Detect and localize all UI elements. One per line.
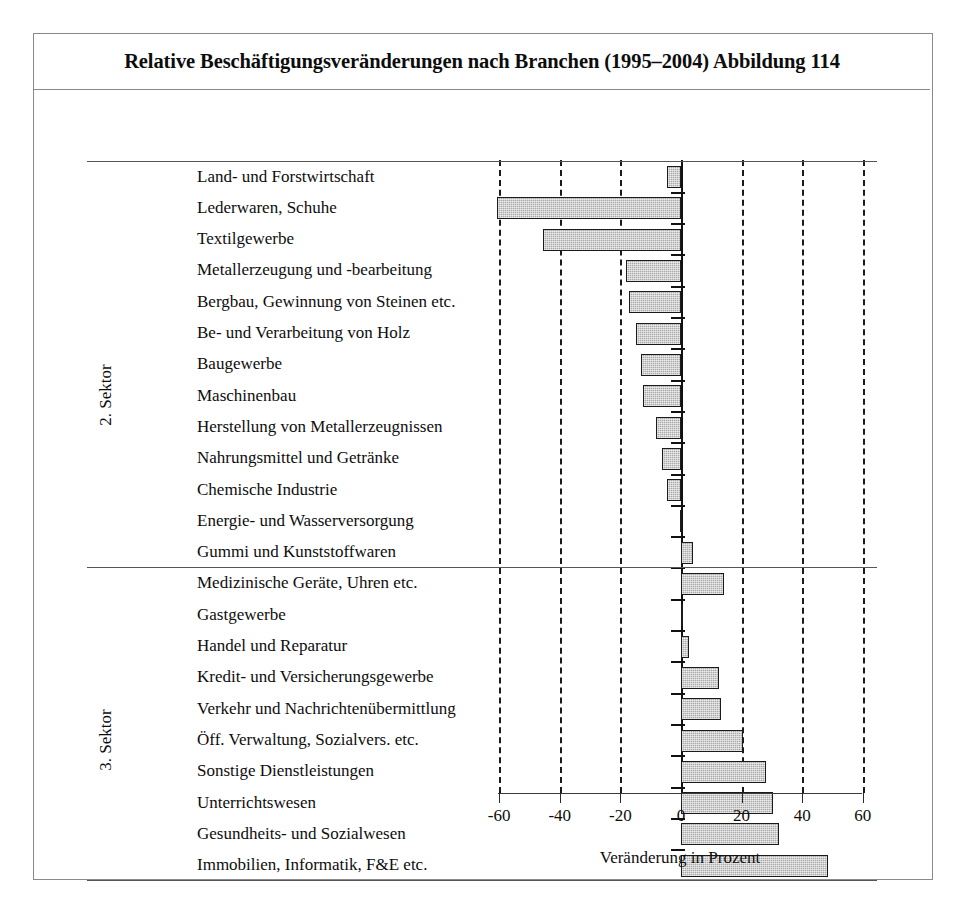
- chart-row: Öff. Verwaltung, Sozialvers. etc.: [0, 724, 966, 755]
- x-axis-tick: [742, 793, 743, 803]
- x-axis-tick-label: -20: [590, 806, 650, 826]
- bar: [667, 479, 681, 501]
- x-axis-tick: [620, 793, 621, 803]
- y-axis-tick: [671, 223, 685, 225]
- sector-separator: [87, 880, 877, 881]
- category-label: Chemische Industrie: [197, 474, 337, 505]
- y-axis-tick: [671, 442, 685, 444]
- chart-row: Land- und Forstwirtschaft: [0, 161, 966, 192]
- category-label: Gesundheits- und Sozialwesen: [197, 818, 406, 849]
- chart-row: Medizinische Geräte, Uhren etc.: [0, 567, 966, 598]
- bar: [681, 636, 689, 658]
- bar: [681, 573, 724, 595]
- bar: [656, 417, 681, 439]
- category-label: Lederwaren, Schuhe: [197, 192, 337, 223]
- chart-row: Chemische Industrie: [0, 474, 966, 505]
- bar: [681, 604, 683, 626]
- y-axis-tick: [671, 411, 685, 413]
- category-label: Sonstige Dienstleistungen: [197, 755, 374, 786]
- chart-row: Baugewerbe: [0, 348, 966, 379]
- y-axis-tick: [671, 630, 685, 632]
- chart-row: Textilgewerbe: [0, 223, 966, 254]
- bar: [543, 229, 681, 251]
- y-axis-tick: [671, 599, 685, 601]
- y-axis-tick: [671, 505, 685, 507]
- x-axis-tick-label: -60: [469, 806, 529, 826]
- x-axis-line: [498, 793, 862, 794]
- bar: [681, 761, 766, 783]
- chart-row: Energie- und Wasserversorgung: [0, 505, 966, 536]
- y-axis-tick: [671, 661, 685, 663]
- y-axis-tick: [671, 192, 685, 194]
- y-axis-tick: [671, 787, 685, 789]
- bar: [681, 667, 719, 689]
- chart-row: Verkehr und Nachrichtenübermittlung: [0, 693, 966, 724]
- category-label: Öff. Verwaltung, Sozialvers. etc.: [197, 724, 419, 755]
- category-label: Nahrungsmittel und Getränke: [197, 442, 399, 473]
- x-axis-tick-label: 60: [833, 806, 893, 826]
- chart-row: Gastgewerbe: [0, 599, 966, 630]
- category-label: Land- und Forstwirtschaft: [197, 161, 375, 192]
- x-axis-tick: [863, 793, 864, 803]
- category-label: Herstellung von Metallerzeugnissen: [197, 411, 443, 442]
- category-label: Medizinische Geräte, Uhren etc.: [197, 567, 417, 598]
- y-axis-tick: [671, 724, 685, 726]
- category-label: Bergbau, Gewinnung von Steinen etc.: [197, 286, 455, 317]
- chart-row: Gummi und Kunststoffwaren: [0, 536, 966, 567]
- bar: [681, 542, 693, 564]
- bar: [681, 730, 743, 752]
- x-axis-title: Veränderung in Prozent: [498, 848, 862, 868]
- sector-label: 3. Sektor: [96, 680, 116, 800]
- bar: [662, 448, 681, 470]
- category-label: Verkehr und Nachrichtenübermittlung: [197, 693, 456, 724]
- x-axis-tick: [499, 793, 500, 803]
- x-axis-tick: [681, 793, 682, 803]
- chart-row: Be- und Verarbeitung von Holz: [0, 317, 966, 348]
- category-label: Baugewerbe: [197, 348, 282, 379]
- category-label: Unterrichtswesen: [197, 787, 316, 818]
- y-axis-tick: [671, 474, 685, 476]
- x-axis-tick: [560, 793, 561, 803]
- category-label: Metallerzeugung und -bearbeitung: [197, 254, 432, 285]
- bar: [636, 323, 681, 345]
- category-label: Gastgewerbe: [197, 599, 286, 630]
- chart-row: Nahrungsmittel und Getränke: [0, 442, 966, 473]
- chart-row: Lederwaren, Schuhe: [0, 192, 966, 223]
- y-axis-tick: [671, 348, 685, 350]
- sector-separator: [87, 161, 877, 162]
- bar: [667, 166, 681, 188]
- y-axis-tick: [671, 254, 685, 256]
- sector-label: 2. Sektor: [96, 335, 116, 455]
- chart-row: Handel und Reparatur: [0, 630, 966, 661]
- chart-row: Herstellung von Metallerzeugnissen: [0, 411, 966, 442]
- y-axis-tick: [671, 286, 685, 288]
- bar: [643, 385, 681, 407]
- bar: [641, 354, 681, 376]
- y-axis-tick: [671, 380, 685, 382]
- chart-row: Maschinenbau: [0, 380, 966, 411]
- y-axis-tick: [671, 317, 685, 319]
- bar: [680, 510, 682, 532]
- bar: [629, 291, 681, 313]
- bar: [681, 823, 779, 845]
- y-axis-tick: [671, 536, 685, 538]
- chart-row: Bergbau, Gewinnung von Steinen etc.: [0, 286, 966, 317]
- chart-row: Kredit- und Versicherungsgewerbe: [0, 661, 966, 692]
- figure-page: Relative Beschäftigungsveränderungen nac…: [0, 0, 966, 901]
- bar: [681, 698, 721, 720]
- bar: [497, 197, 681, 219]
- chart-row: Sonstige Dienstleistungen: [0, 755, 966, 786]
- category-label: Handel und Reparatur: [197, 630, 347, 661]
- category-label: Textilgewerbe: [197, 223, 294, 254]
- x-axis-tick-label: 0: [651, 806, 711, 826]
- category-label: Energie- und Wasserversorgung: [197, 505, 414, 536]
- x-axis-tick-label: 40: [772, 806, 832, 826]
- category-label: Immobilien, Informatik, F&E etc.: [197, 849, 427, 880]
- y-axis-tick: [671, 693, 685, 695]
- x-axis-tick-label: 20: [712, 806, 772, 826]
- bar-chart-plot: Land- und ForstwirtschaftLederwaren, Sch…: [0, 0, 966, 901]
- category-label: Maschinenbau: [197, 380, 296, 411]
- category-label: Gummi und Kunststoffwaren: [197, 536, 396, 567]
- bar: [626, 260, 681, 282]
- sector-separator: [87, 567, 877, 568]
